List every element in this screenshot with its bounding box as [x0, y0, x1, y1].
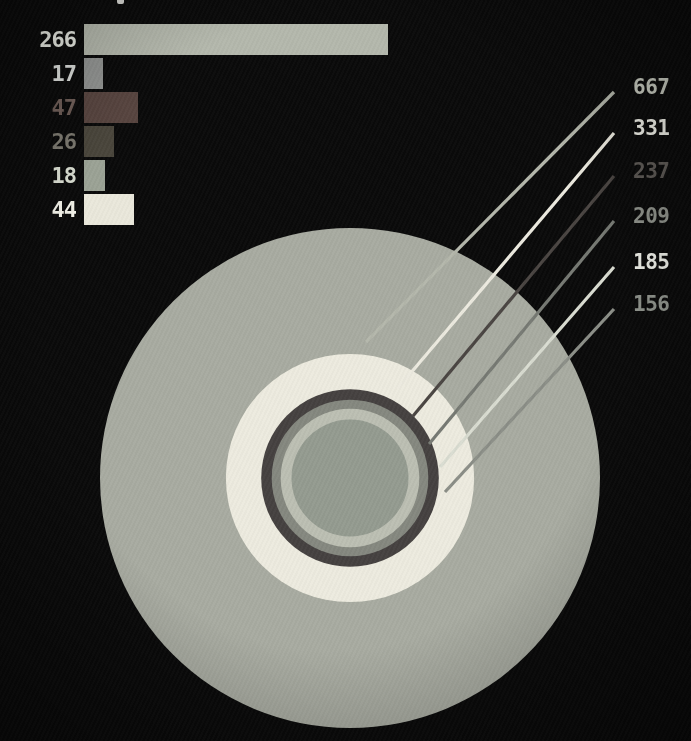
bar-chart: 2661747261844 — [0, 0, 691, 240]
bar-segment-17 — [84, 58, 103, 89]
bar-row: 26 — [0, 126, 691, 157]
ring-value-label-156: 156 — [633, 291, 669, 317]
bar-row: 17 — [0, 58, 691, 89]
chart-area: 2661747261844 667331237209185156 — [0, 0, 691, 741]
bar-row: 18 — [0, 160, 691, 191]
ring-value-label-667: 667 — [633, 74, 669, 100]
bar-value-label: 47 — [0, 92, 76, 123]
bar-row: 266 — [0, 24, 691, 55]
ring-value-label-237: 237 — [633, 158, 669, 184]
bar-value-label: 266 — [0, 24, 76, 55]
ring-156 — [292, 420, 409, 537]
bar-segment-18 — [84, 160, 105, 191]
ring-value-label-185: 185 — [633, 249, 669, 275]
ring-value-label-209: 209 — [633, 203, 669, 229]
bar-row: 47 — [0, 92, 691, 123]
ring-value-label-331: 331 — [633, 115, 669, 141]
bar-row: 44 — [0, 194, 691, 225]
bar-segment-47 — [84, 92, 138, 123]
bar-value-label: 44 — [0, 194, 76, 225]
bar-value-label: 17 — [0, 58, 76, 89]
bar-value-label: 18 — [0, 160, 76, 191]
bar-segment-44 — [84, 194, 134, 225]
bar-value-label: 26 — [0, 126, 76, 157]
dashboard-screenshot: 2661747261844 667331237209185156 — [0, 0, 691, 741]
bar-segment-26 — [84, 126, 114, 157]
bar-segment-266 — [84, 24, 388, 55]
